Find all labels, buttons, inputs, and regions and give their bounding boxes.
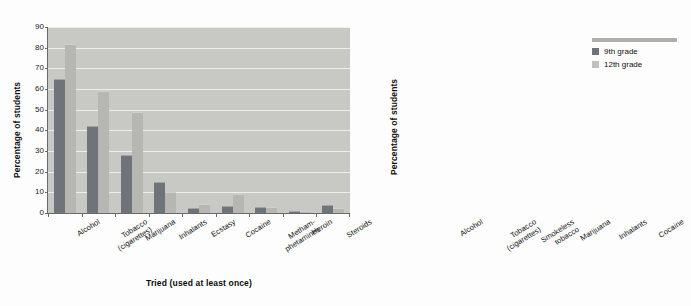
x-axis-category-label: Alcohol: [459, 218, 485, 239]
y-axis-tick-label: 60: [35, 85, 44, 93]
x-axis-category-label: Marijuana: [144, 218, 177, 243]
y-axis-tick-label: 70: [35, 64, 44, 72]
y-axis-tick-label: 0: [40, 209, 44, 217]
legend: 9th grade 12th grade: [592, 38, 680, 73]
y-axis-title-left: Percentage of students: [12, 82, 22, 178]
x-axis-title-left: Tried (used at least once): [48, 278, 350, 288]
x-axis-category-label: Smokeless tobacco: [540, 218, 581, 252]
legend-item-12th-grade: 12th grade: [592, 60, 680, 69]
bar-12th-grade: [98, 91, 109, 213]
legend-label-9th-grade: 9th grade: [604, 47, 638, 56]
x-axis-category-label: Marijuana: [579, 218, 612, 243]
bar-group: [182, 27, 216, 213]
legend-rule: [592, 38, 677, 42]
chart-panel-tried: Percentage of students 01020304050607080…: [0, 0, 370, 306]
y-axis-tick-label: 30: [35, 147, 44, 155]
y-axis-tick-label: 10: [35, 188, 44, 196]
legend-swatch-9th-grade: [592, 48, 599, 55]
bar-group: [216, 27, 250, 213]
y-axis-title-right: Percentage of students: [389, 79, 399, 175]
bar-12th-grade: [233, 194, 244, 213]
bar-group: [149, 27, 183, 213]
bar-group: [316, 27, 350, 213]
bar-9th-grade: [154, 182, 165, 213]
x-axis-category-label: Cocaine: [244, 218, 272, 240]
bar-12th-grade: [165, 192, 176, 213]
bar-12th-grade: [65, 44, 76, 213]
bar-12th-grade: [199, 204, 210, 213]
figure-two-panel-bar-charts: Percentage of students 01020304050607080…: [0, 0, 691, 306]
x-axis-category-label: Ecstasy: [210, 218, 237, 240]
x-axis-category-label: Alcohol: [76, 218, 102, 239]
legend-item-9th-grade: 9th grade: [592, 47, 680, 56]
y-axis-tick-label: 40: [35, 126, 44, 134]
y-axis-line-left: [47, 27, 48, 213]
bar-group: [283, 27, 317, 213]
x-axis-line-left: [47, 213, 350, 214]
x-axis-category-label: Cocaine: [657, 218, 685, 240]
bar-9th-grade: [54, 79, 65, 213]
bar-9th-grade: [87, 126, 98, 213]
axis-layer-left: 0102030405060708090: [48, 27, 350, 213]
bar-group: [82, 27, 116, 213]
bar-group: [249, 27, 283, 213]
bar-9th-grade: [121, 155, 132, 213]
plot-area-left: 0102030405060708090: [48, 27, 350, 213]
y-axis-tick-label: 20: [35, 168, 44, 176]
bar-group: [48, 27, 82, 213]
y-axis-tick-label: 50: [35, 106, 44, 114]
legend-swatch-12th-grade: [592, 61, 599, 68]
y-axis-tick-label: 80: [35, 44, 44, 52]
bar-group: [115, 27, 149, 213]
legend-label-12th-grade: 12th grade: [604, 60, 642, 69]
x-axis-category-label: Inhalants: [178, 218, 209, 242]
x-axis-category-label: Inhalants: [618, 218, 649, 242]
bar-12th-grade: [132, 112, 143, 213]
y-axis-tick-label: 90: [35, 23, 44, 31]
x-axis-category-label: Tobacco (cigarettes): [501, 218, 543, 253]
